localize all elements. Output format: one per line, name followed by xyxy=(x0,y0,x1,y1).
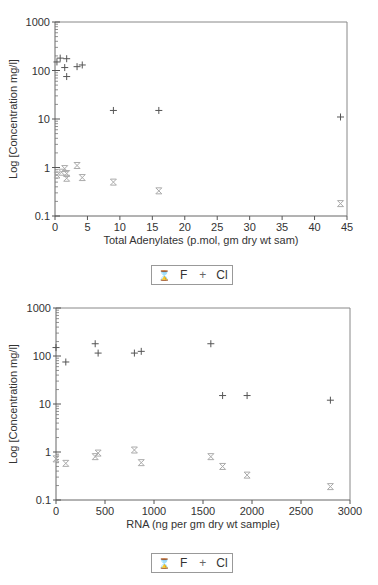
plus-marker-icon xyxy=(337,113,344,120)
x-tick-label: 10 xyxy=(114,221,126,233)
legend-label-cl: Cl xyxy=(216,556,227,570)
plus-marker-icon xyxy=(327,397,334,404)
legend-item-cl: + Cl xyxy=(199,556,227,570)
hourglass-marker-icon xyxy=(327,484,333,490)
plus-marker-icon xyxy=(61,64,68,71)
x-tick-label: 45 xyxy=(341,221,353,233)
plus-marker-icon: + xyxy=(199,556,206,570)
x-tick-label: 5 xyxy=(84,221,90,233)
plus-marker-icon xyxy=(138,348,145,355)
y-tick-label: 10 xyxy=(39,398,51,410)
hourglass-marker-icon: ⌛ xyxy=(158,270,170,281)
rna-chart: 0.11101001000050010001500200025003000RNA… xyxy=(0,290,378,535)
y-tick-label: 0.1 xyxy=(35,210,50,222)
x-tick-label: 20 xyxy=(179,221,191,233)
plus-marker-icon xyxy=(219,392,226,399)
hourglass-marker-icon xyxy=(208,454,214,460)
plus-marker-icon xyxy=(63,55,70,62)
hourglass-marker-icon xyxy=(244,472,250,478)
legend-item-f: ⌛ F xyxy=(158,268,187,282)
x-tick-label: 15 xyxy=(146,221,158,233)
plus-marker-icon xyxy=(155,107,162,114)
legend-label-f: F xyxy=(180,268,187,282)
plus-marker-icon xyxy=(92,340,99,347)
x-tick-label: 0 xyxy=(52,221,58,233)
hourglass-marker-icon xyxy=(79,175,85,181)
x-tick-label: 25 xyxy=(211,221,223,233)
plus-marker-icon xyxy=(74,63,81,70)
hourglass-marker-icon xyxy=(95,450,101,456)
legend-label-f: F xyxy=(180,556,187,570)
plus-marker-icon: + xyxy=(199,268,206,282)
plus-marker-icon xyxy=(53,58,60,65)
plot-frame xyxy=(55,22,347,216)
y-tick-label: 100 xyxy=(33,350,51,362)
series-cl xyxy=(53,340,334,403)
hourglass-marker-icon xyxy=(156,188,162,194)
x-tick-label: 30 xyxy=(244,221,256,233)
hourglass-marker-icon: ⌛ xyxy=(158,558,170,569)
x-axis: 051015202530354045 xyxy=(52,216,353,233)
legend-top: ⌛ F + Cl xyxy=(151,265,233,285)
hourglass-marker-icon xyxy=(138,460,144,466)
plus-marker-icon xyxy=(207,340,214,347)
plus-marker-icon xyxy=(62,358,69,365)
adenylates-chart: 0.11101001000051015202530354045Total Ade… xyxy=(0,0,378,250)
y-tick-label: 1 xyxy=(44,162,50,174)
y-axis-label: Log [Concentration mg/l] xyxy=(7,59,19,179)
legend-bottom: ⌛ F + Cl xyxy=(151,553,233,573)
plus-marker-icon xyxy=(79,61,86,68)
plus-marker-icon xyxy=(110,107,117,114)
x-axis: 050010001500200025003000 xyxy=(53,500,362,517)
x-tick-label: 3000 xyxy=(338,505,362,517)
series-cl xyxy=(53,55,344,121)
x-axis-label: RNA (ng per gm dry wt sample) xyxy=(126,518,279,530)
legend-label-cl: Cl xyxy=(216,268,227,282)
x-tick-label: 2500 xyxy=(289,505,313,517)
x-axis-label: Total Adenylates (p.mol, gm dry wt sam) xyxy=(103,234,298,246)
hourglass-marker-icon xyxy=(338,201,344,207)
y-tick-label: 0.1 xyxy=(36,494,51,506)
hourglass-marker-icon xyxy=(131,447,137,453)
x-tick-label: 1000 xyxy=(142,505,166,517)
plus-marker-icon xyxy=(63,73,70,80)
x-tick-label: 2000 xyxy=(240,505,264,517)
hourglass-marker-icon xyxy=(110,179,116,185)
y-tick-label: 100 xyxy=(32,65,50,77)
plus-marker-icon xyxy=(53,344,60,351)
y-tick-label: 1000 xyxy=(27,302,51,314)
legend-item-f: ⌛ F xyxy=(158,556,187,570)
x-tick-label: 1500 xyxy=(191,505,215,517)
plus-marker-icon xyxy=(244,392,251,399)
y-tick-label: 1000 xyxy=(26,16,50,28)
x-tick-label: 0 xyxy=(53,505,59,517)
x-tick-label: 35 xyxy=(276,221,288,233)
y-tick-label: 1 xyxy=(45,446,51,458)
hourglass-marker-icon xyxy=(220,463,226,469)
y-tick-label: 10 xyxy=(38,113,50,125)
legend-item-cl: + Cl xyxy=(199,268,227,282)
x-tick-label: 500 xyxy=(96,505,114,517)
y-axis-label: Log [Concentration mg/l] xyxy=(7,344,19,464)
plus-marker-icon xyxy=(95,350,102,357)
x-tick-label: 40 xyxy=(308,221,320,233)
plot-frame xyxy=(56,308,350,500)
hourglass-marker-icon xyxy=(63,460,69,466)
hourglass-marker-icon xyxy=(74,162,80,168)
series-f xyxy=(54,162,344,206)
series-f xyxy=(53,447,333,490)
plus-marker-icon xyxy=(131,350,138,357)
